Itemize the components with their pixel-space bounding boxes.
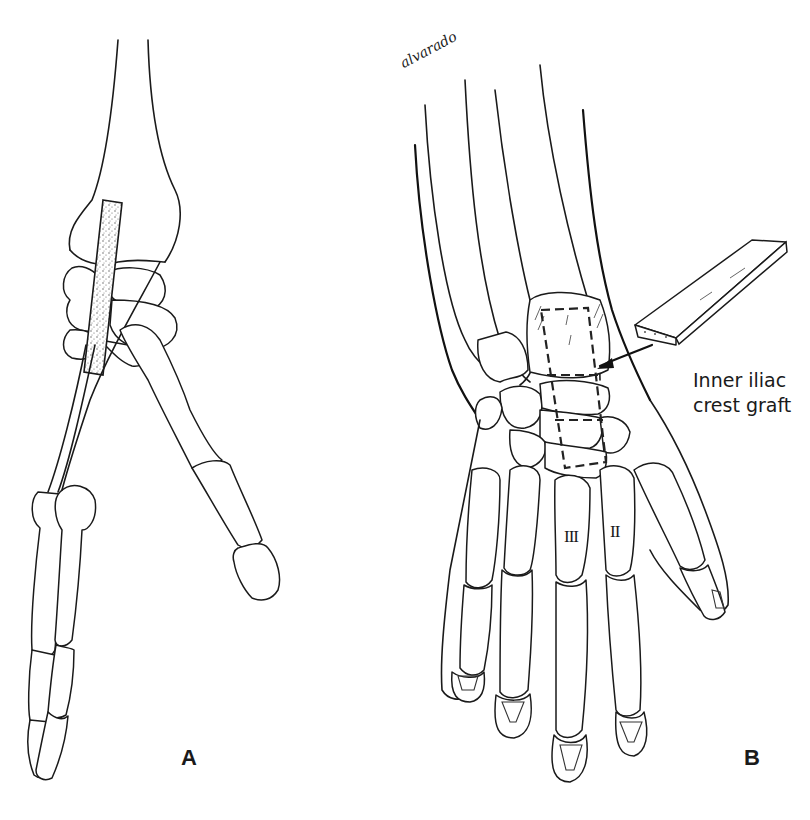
wrist-arthrodesis-illustration: A: [0, 0, 810, 820]
panel-label-b: B: [744, 745, 760, 771]
fingernails: [458, 590, 724, 770]
graft-callout-label: Inner iliac crest graft: [693, 368, 791, 418]
metacarpal-label-iii: III: [564, 527, 578, 547]
panel-a-drawing: [28, 40, 280, 780]
callout-line-1: Inner iliac: [693, 368, 791, 393]
panel-label-a: A: [181, 745, 197, 771]
callout-line-2: crest graft: [693, 393, 791, 418]
metacarpal-label-ii: II: [610, 522, 619, 542]
iliac-crest-graft-block: [635, 240, 787, 345]
panel-b-drawing: [415, 65, 787, 782]
